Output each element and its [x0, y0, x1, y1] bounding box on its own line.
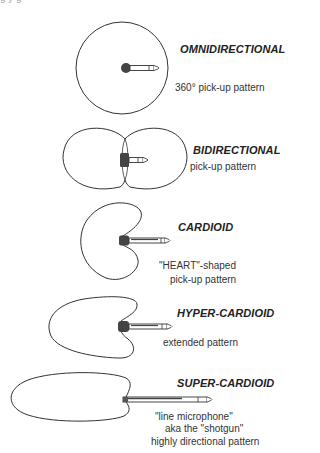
- bidirectional-pattern: [63, 128, 187, 189]
- microphone-icon: [121, 63, 159, 73]
- cardioid-pattern: [81, 203, 170, 280]
- super-cardioid-description-line3: highly directional pattern: [151, 436, 259, 448]
- cardioid-description-line2: pick-up pattern: [170, 274, 236, 286]
- microphone-icon: [118, 321, 172, 332]
- bidirectional-title: BIDIRECTIONAL: [193, 144, 280, 156]
- microphone-icon: [119, 236, 170, 246]
- super-cardioid-title: SUPER-CARDIOID: [177, 377, 274, 389]
- cardioid-title: CARDIOID: [178, 221, 233, 233]
- microphone-icon: [123, 397, 212, 402]
- hyper-cardioid-title: HYPER-CARDIOID: [177, 307, 274, 319]
- hyper-cardioid-pattern: [49, 297, 172, 358]
- super-cardioid-description-line1: "line microphone": [155, 411, 233, 423]
- omnidirectional-pattern: [76, 22, 168, 114]
- microphone-icon: [120, 153, 148, 167]
- omnidirectional-description: 360° pick-up pattern: [175, 82, 265, 94]
- super-cardioid-description-line2: aka the "shotgun": [165, 423, 243, 435]
- cardioid-description-line1: "HEART"-shaped: [159, 260, 236, 272]
- omnidirectional-title: OMNIDIRECTIONAL: [180, 43, 285, 55]
- hyper-cardioid-description: extended pattern: [163, 337, 238, 349]
- bidirectional-description: pick-up pattern: [190, 161, 256, 173]
